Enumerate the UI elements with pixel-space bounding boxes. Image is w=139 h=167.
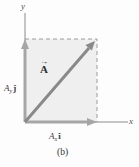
ax-subscript: x: [55, 136, 58, 142]
i-hat-unit-vector: î: [58, 131, 61, 141]
ay-component-label: Ayĵ: [4, 84, 16, 94]
vector-components-figure: y x → A Ayĵ Axî (b): [0, 0, 139, 167]
vector-a-letter: A: [40, 64, 48, 75]
x-axis-label: x: [129, 117, 133, 126]
ay-subscript: y: [10, 88, 13, 94]
vector-a-label: → A: [40, 60, 48, 75]
ax-component-label: Axî: [49, 132, 61, 142]
figure-caption: (b): [57, 148, 68, 158]
vector-diagram-canvas: [0, 0, 139, 167]
y-axis-label: y: [21, 2, 25, 11]
j-hat-unit-vector: ĵ: [13, 83, 16, 93]
